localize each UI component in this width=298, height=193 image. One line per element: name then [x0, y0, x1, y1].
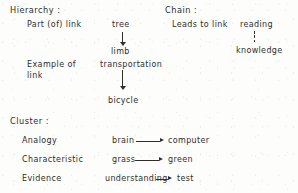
example-node-grass: grass: [112, 155, 135, 165]
example-node-computer: computer: [168, 136, 209, 146]
link-type-label-analogy: Analogy: [22, 136, 57, 146]
diagram-page: Hierarchy : Part (of) link Example of li…: [0, 0, 298, 193]
link-type-label-evidence: Evidence: [22, 174, 62, 184]
example-node-knowledge: knowledge: [236, 46, 283, 56]
example-node-brain: brain: [112, 136, 134, 146]
example-node-test: test: [177, 174, 194, 184]
link-type-label-example-of-link-line1: Example of: [27, 60, 76, 70]
example-node-reading: reading: [240, 20, 273, 30]
example-node-limb: limb: [111, 47, 130, 57]
example-node-transportation: transportation: [100, 60, 162, 70]
section-heading-chain: Chain :: [165, 5, 197, 15]
link-type-label-part-of-link: Part (of) link: [27, 20, 82, 30]
link-type-label-example-of-link-line2: link: [27, 71, 43, 81]
link-type-label-characteristic: Characteristic: [22, 155, 83, 165]
section-heading-cluster: Cluster :: [10, 116, 49, 126]
example-node-tree: tree: [112, 20, 130, 30]
example-node-green: green: [168, 155, 193, 165]
example-node-bicycle: bicycle: [108, 96, 138, 106]
link-type-label-leads-to-link: Leads to link: [172, 20, 228, 30]
section-heading-hierarchy: Hierarchy :: [10, 5, 60, 15]
